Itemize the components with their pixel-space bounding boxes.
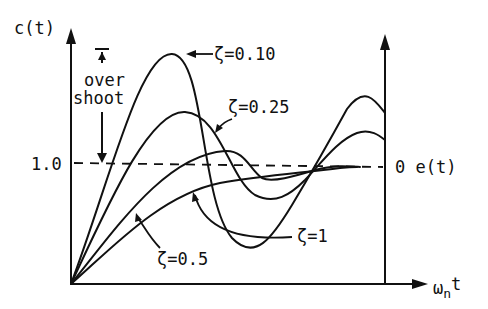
leader-arrow-zeta-0.10-icon [186, 50, 196, 58]
label-zeta-1: ζ=1 [297, 226, 328, 246]
label-zeta-0.10: ζ=0.10 [214, 44, 275, 64]
leader-arrow-zeta-1-icon [192, 192, 199, 202]
x-axis-label: ωnt [433, 274, 461, 301]
error-axis-label: 0 e(t) [395, 157, 456, 177]
leader-arrow-zeta-0.5-icon [135, 213, 142, 222]
curve-zeta-0.25 [71, 112, 385, 284]
error-axis-arrow-icon [380, 34, 390, 50]
step-response-diagram: over shoot c(t) 1.0 0 e(t) ωnt ζ=0.10 ζ=… [0, 0, 488, 309]
y-axis-arrow-icon [66, 28, 76, 44]
x-axis-arrow-icon [412, 279, 428, 289]
overshoot-label-line1: over [84, 70, 125, 90]
overshoot-down-arrow-icon [97, 153, 107, 163]
overshoot-label-line2: shoot [73, 88, 124, 108]
reference-value-label: 1.0 [31, 154, 62, 174]
y-axis-label: c(t) [14, 18, 55, 38]
leader-zeta-0.5 [138, 218, 160, 248]
label-zeta-0.5: ζ=0.5 [157, 249, 208, 269]
leader-zeta-1 [195, 195, 292, 238]
label-zeta-0.25: ζ=0.25 [228, 97, 289, 117]
